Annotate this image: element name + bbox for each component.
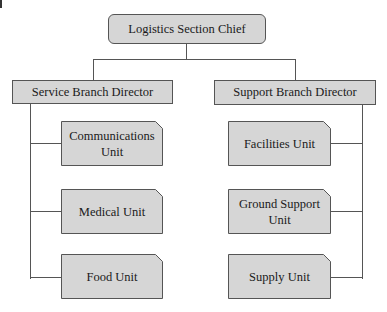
service-branch-director-box: Service Branch Director xyxy=(12,80,173,104)
communications-unit-label: Communications Unit xyxy=(61,121,163,166)
service-branch-director-label: Service Branch Director xyxy=(32,85,153,100)
ground-support-unit-label: Ground Support Unit xyxy=(228,189,331,234)
page-edge-marker xyxy=(0,0,2,8)
support-tick-facilities xyxy=(330,143,362,144)
service-tick-medical xyxy=(30,211,61,212)
medical-unit-box: Medical Unit xyxy=(61,189,163,234)
root-trunk-line xyxy=(186,44,187,60)
left-branch-drop-line xyxy=(93,59,94,81)
food-unit-box: Food Unit xyxy=(61,254,163,299)
supply-unit-box: Supply Unit xyxy=(228,254,331,299)
logistics-section-chief-label: Logistics Section Chief xyxy=(128,22,245,37)
service-tick-communications xyxy=(30,143,61,144)
service-tick-food xyxy=(30,277,61,278)
facilities-unit-box: Facilities Unit xyxy=(228,121,331,166)
support-branch-director-label: Support Branch Director xyxy=(233,85,357,100)
service-branch-spine-line xyxy=(30,104,31,279)
food-unit-label: Food Unit xyxy=(61,254,163,299)
ground-support-unit-box: Ground Support Unit xyxy=(228,189,331,234)
right-branch-drop-line xyxy=(295,59,296,81)
communications-unit-box: Communications Unit xyxy=(61,121,163,166)
supply-unit-label: Supply Unit xyxy=(228,254,331,299)
branch-horizontal-line xyxy=(93,59,296,60)
support-tick-ground-support xyxy=(330,211,362,212)
support-tick-supply xyxy=(330,277,362,278)
facilities-unit-label: Facilities Unit xyxy=(228,121,331,166)
logistics-section-chief-box: Logistics Section Chief xyxy=(108,14,266,44)
support-branch-director-box: Support Branch Director xyxy=(214,80,376,105)
support-branch-spine-line xyxy=(362,105,363,279)
medical-unit-label: Medical Unit xyxy=(61,189,163,234)
